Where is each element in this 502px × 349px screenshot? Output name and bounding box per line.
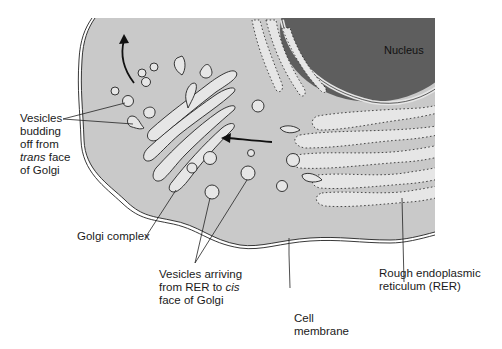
vesicles-arriving-label: Vesicles arriving from RER to cis face o… [159,268,242,307]
label-line: face of Golgi [159,294,242,307]
label-line: Cell [294,312,349,325]
cell-membrane-label: Cell membrane [294,312,349,338]
cell-diagram [0,0,502,349]
label-line: membrane [294,325,349,338]
label-line: Vesicles [20,112,71,125]
label-line: off from [20,138,71,151]
label-line: from RER to cis [159,281,242,294]
label-line: reticulum (RER) [379,280,481,293]
label-line: of Golgi [20,164,71,177]
label-text: from RER to [159,281,225,293]
label-line: budding [20,125,71,138]
label-text: face [46,151,71,163]
nucleus-label: Nucleus [384,44,424,56]
golgi-complex-label: Golgi complex [77,230,150,243]
rer-label: Rough endoplasmic reticulum (RER) [379,267,481,293]
italic-term: trans [20,151,46,163]
label-line: trans face [20,151,71,164]
italic-term: cis [225,281,239,293]
vesicles-budding-label: Vesicles budding off from trans face of … [20,112,71,177]
label-line: Rough endoplasmic [379,267,481,280]
label-line: Vesicles arriving [159,268,242,281]
